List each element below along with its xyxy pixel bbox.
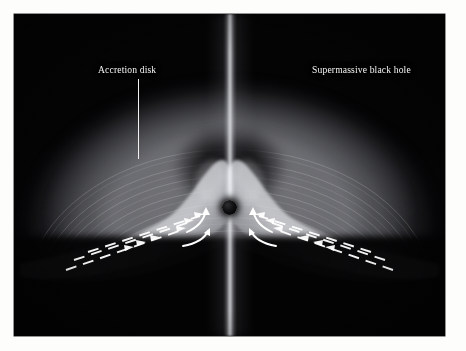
vignette-overlay (14, 14, 445, 336)
figure-root: Accretion disk Supermassive black hole (0, 0, 466, 351)
label-accretion-disk: Accretion disk (98, 64, 156, 75)
leader-line-accretion-disk (138, 79, 139, 159)
astronomy-image-plate: Accretion disk Supermassive black hole (14, 14, 445, 336)
label-supermassive-black-hole: Supermassive black hole (312, 64, 411, 75)
